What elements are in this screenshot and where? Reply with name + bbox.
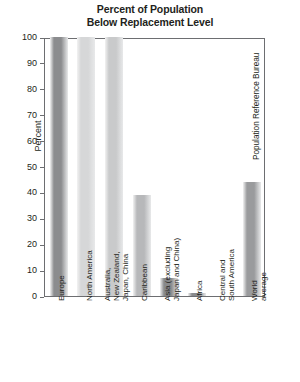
y-tick-label: 70: [27, 110, 37, 121]
y-tick-mark: [40, 115, 44, 116]
x-axis-label: Europe: [57, 275, 66, 301]
y-tick-label: 90: [27, 58, 37, 69]
x-axis-label: Africa: [195, 281, 204, 301]
chart-figure: Percent of Population Below Replacement …: [0, 0, 300, 382]
y-tick-label: 80: [27, 84, 37, 95]
y-tick-mark: [40, 297, 44, 298]
y-tick-mark: [40, 167, 44, 168]
y-tick-mark: [40, 38, 44, 39]
y-tick-mark: [40, 63, 44, 64]
chart-title: Percent of Population Below Replacement …: [30, 3, 270, 29]
y-tick-label: 100: [22, 32, 37, 43]
y-tick-mark: [40, 141, 44, 142]
y-tick-label: 20: [27, 239, 37, 250]
y-tick-label: 0: [32, 291, 37, 302]
y-tick-label: 40: [27, 187, 37, 198]
y-tick-label: 60: [27, 136, 37, 147]
y-tick-mark: [40, 89, 44, 90]
y-tick-mark: [40, 219, 44, 220]
y-tick-mark: [40, 271, 44, 272]
y-tick-mark: [40, 193, 44, 194]
x-axis-label: World average: [250, 251, 268, 301]
y-tick-mark: [40, 245, 44, 246]
x-axis-label: Central and South America: [218, 249, 236, 301]
x-axis-label: Asia (excluding Japan and China): [163, 238, 181, 301]
source-credit: Population Reference Bureau: [252, 53, 261, 160]
x-axis-label: Caribbean: [140, 264, 149, 301]
y-tick-label: 30: [27, 213, 37, 224]
x-axis-label: Australia, New Zealand, Japan, China: [103, 252, 131, 301]
bar: [50, 37, 68, 296]
y-tick-label: 10: [27, 265, 37, 276]
x-axis-label: North America: [85, 250, 94, 301]
y-tick-label: 50: [27, 162, 37, 173]
